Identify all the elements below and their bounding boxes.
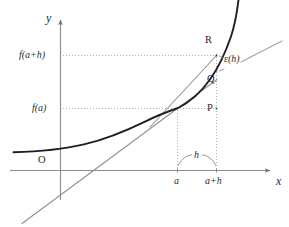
tangent-line-continuation: [241, 41, 282, 62]
secant-line: [150, 56, 217, 128]
epsilon-h-label: ε(h): [224, 54, 240, 64]
origin-label: O: [38, 155, 46, 166]
epsilon-pointer-lower: [220, 69, 225, 71]
y-tick-label-f-a-plus-h: f(a+h): [19, 50, 45, 60]
y-axis-label: y: [46, 12, 51, 24]
axes-group: [10, 20, 270, 200]
diagram-canvas: [0, 0, 289, 227]
x-axis-label: x: [276, 175, 281, 187]
point-label-R: R: [205, 35, 212, 46]
point-dot-Q: [216, 70, 218, 72]
h-interval-label: h: [194, 150, 199, 160]
h-brace-left: [178, 155, 192, 166]
y-tick-label-f-a: f(a): [32, 103, 46, 113]
point-dot-R: [216, 55, 218, 57]
point-dot-P: [216, 108, 218, 110]
point-label-P: P: [207, 103, 213, 114]
derivative-diagram: y x O f(a+h) f(a) a a+h R Q P ε(h) h: [0, 0, 289, 227]
point-label-Q: Q: [207, 74, 215, 85]
x-tick-label-a: a: [174, 176, 179, 186]
h-brace-right: [203, 155, 217, 166]
x-tick-label-a-plus-h: a+h: [205, 176, 222, 186]
